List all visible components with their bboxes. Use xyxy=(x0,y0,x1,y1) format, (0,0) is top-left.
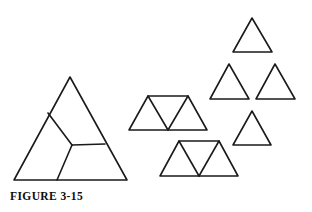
figure-caption: FIGURE 3-15 xyxy=(10,190,83,202)
small-triangle-bottom-outline xyxy=(233,111,271,145)
lower-trapezoid xyxy=(160,141,238,176)
upper-trapezoid xyxy=(129,96,207,130)
small-triangle-middle-left xyxy=(210,64,249,99)
figure-canvas xyxy=(0,0,312,212)
small-triangle-middle-right-outline xyxy=(256,64,295,99)
figure-page: FIGURE 3-15 xyxy=(0,0,312,212)
small-triangle-bottom xyxy=(233,111,271,145)
upper-trapezoid-interior-line-2 xyxy=(168,96,188,130)
upper-trapezoid-outline xyxy=(129,96,207,130)
small-triangle-top xyxy=(233,18,272,52)
small-triangle-top-outline xyxy=(233,18,272,52)
small-triangle-middle-left-outline xyxy=(210,64,249,99)
large-subdivided-triangle-interior-line-1 xyxy=(48,113,72,145)
large-subdivided-triangle-interior-line-2 xyxy=(72,144,105,145)
upper-trapezoid-interior-line-1 xyxy=(148,96,168,130)
lower-trapezoid-outline xyxy=(160,141,238,176)
large-subdivided-triangle-outline xyxy=(14,77,127,180)
lower-trapezoid-interior-line-1 xyxy=(179,141,199,176)
lower-trapezoid-interior-line-2 xyxy=(199,141,219,176)
shape-layer xyxy=(14,18,295,180)
large-subdivided-triangle-interior-line-3 xyxy=(57,145,72,180)
large-subdivided-triangle xyxy=(14,77,127,180)
small-triangle-middle-right xyxy=(256,64,295,99)
